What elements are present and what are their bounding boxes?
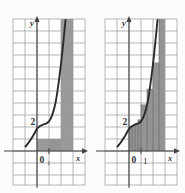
riemann-bar	[132, 126, 135, 151]
y-axis-label: y	[29, 18, 34, 28]
left-panel-svg: 2 0 1 y x	[0, 0, 92, 193]
x-tick-label-1: 1	[47, 159, 51, 167]
riemann-bar	[153, 62, 159, 151]
origin-label: 0	[40, 155, 45, 165]
x-axis-label: x	[167, 153, 173, 163]
x-tick-label-1: 1	[143, 156, 148, 166]
x-axis-label: x	[75, 153, 81, 163]
chart-panel-right: 2 0 1 y x	[92, 0, 184, 193]
chart-panel-left: 2 0 1 y x	[0, 0, 92, 193]
y-tick-label-2: 2	[123, 117, 128, 127]
figure-root: 2 0 1 y x	[0, 0, 185, 193]
right-panel-svg: 2 0 1 y x	[92, 0, 184, 193]
origin-label: 0	[132, 155, 137, 165]
riemann-bar	[159, 19, 165, 151]
y-axis-label: y	[121, 18, 126, 28]
y-tick-label-2: 2	[31, 117, 36, 127]
